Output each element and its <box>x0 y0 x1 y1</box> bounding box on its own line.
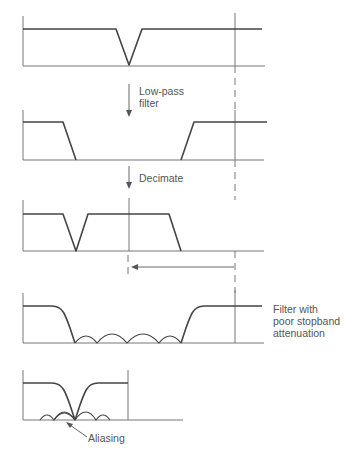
poor-label-line3: attenuation <box>273 327 340 339</box>
decimate-arrow-icon <box>126 166 132 189</box>
aliasing-label-text: Aliasing <box>88 432 125 444</box>
lowpass-arrow-icon <box>126 84 132 117</box>
poor-label-line1: Filter with <box>273 303 340 315</box>
panel-aliased-spectrum <box>23 370 183 437</box>
lowpass-filter-label: Low-pass filter <box>139 85 184 109</box>
poor-filter-label: Filter with poor stopband attenuation <box>273 303 340 339</box>
aliasing-pointer-icon <box>66 422 87 437</box>
panel-poor-filter-spectrum <box>23 290 264 343</box>
panel-input-spectrum <box>23 13 265 66</box>
lowpass-label-line2: filter <box>139 97 184 109</box>
poor-label-line2: poor stopband <box>273 315 340 327</box>
decimate-label: Decimate <box>139 172 183 184</box>
shift-arrow-icon <box>128 255 234 277</box>
decimate-label-text: Decimate <box>139 172 183 184</box>
decimation-diagram <box>0 0 355 450</box>
aliasing-label: Aliasing <box>88 432 125 444</box>
panel-decimated-spectrum <box>23 198 264 251</box>
panel-lowpass-spectrum <box>23 110 267 160</box>
lowpass-label-line1: Low-pass <box>139 85 184 97</box>
